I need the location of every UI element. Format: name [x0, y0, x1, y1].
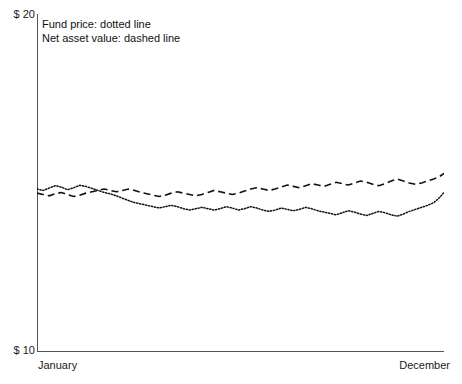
x-axis-end-label: December: [320, 360, 450, 371]
net-asset-value-line: [37, 174, 444, 197]
fund-price-line: [37, 185, 444, 216]
y-axis-max-label: $ 20: [0, 9, 35, 20]
plot-area: [37, 14, 444, 352]
legend-item-net-asset-value: Net asset value: dashed line: [42, 31, 180, 45]
chart-page: $ 20 $ 10 January December Fund price: d…: [0, 0, 462, 384]
x-axis-start-label: January: [38, 360, 77, 371]
legend: Fund price: dotted line Net asset value:…: [42, 17, 180, 45]
legend-item-fund-price: Fund price: dotted line: [42, 17, 180, 31]
y-axis-min-label: $ 10: [0, 345, 35, 356]
